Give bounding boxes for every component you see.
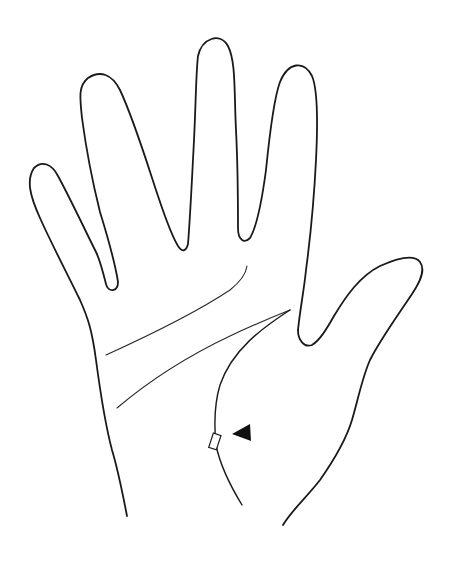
square-marker	[209, 433, 221, 450]
hand-outline	[30, 38, 317, 516]
hand-drawing	[0, 0, 451, 564]
life-line	[215, 310, 290, 505]
arrowhead-pointer-icon	[232, 424, 251, 441]
heart-line	[106, 266, 247, 355]
thumb-outline	[283, 258, 422, 525]
head-line	[117, 310, 290, 408]
palm-diagram: Outline drawing of a left palm with open…	[0, 0, 451, 564]
